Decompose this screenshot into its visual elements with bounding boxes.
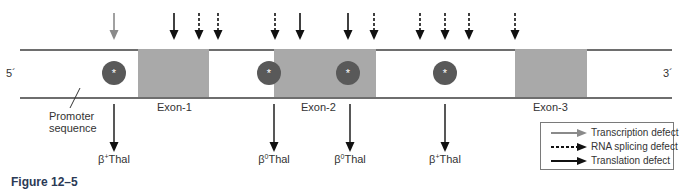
splicing-arrow-515 — [511, 13, 520, 40]
promoter-pointer-line — [70, 88, 80, 108]
outcome-arrow-3 — [346, 104, 355, 152]
figure-caption: Figure 12–5 — [11, 175, 78, 189]
translation-arrow-300 — [296, 13, 305, 40]
outcome-arrow-2 — [270, 104, 279, 152]
transcription-arrow — [110, 13, 119, 40]
outcome-label-beta-zero-1: β0Thal — [258, 153, 290, 165]
splicing-arrow-445 — [441, 13, 450, 40]
splicing-arrow-420 — [416, 13, 425, 40]
splicing-arrow-199 — [195, 13, 204, 40]
translation-arrow-348 — [344, 13, 353, 40]
gray-arrow-icon — [551, 128, 587, 138]
outcome-label-beta-zero-2: β0Thal — [334, 153, 366, 165]
splicing-arrow-374 — [370, 13, 379, 40]
outcome-arrow-4 — [441, 104, 450, 152]
solid-arrow-icon — [551, 156, 587, 166]
splicing-arrow-218 — [214, 13, 223, 40]
legend-box: Transcription defect RNA splicing defect… — [540, 122, 674, 170]
splicing-arrow-275 — [271, 13, 280, 40]
outcome-label-beta-plus-2: β+Thal — [429, 153, 461, 165]
splicing-arrow-469 — [465, 13, 474, 40]
legend-item-transcription: Transcription defect — [551, 126, 678, 139]
outcome-arrow-1 — [110, 104, 119, 152]
outcome-label-beta-plus-1: β+Thal — [98, 153, 130, 165]
legend-item-translation: Translation defect — [551, 154, 670, 167]
dashed-arrow-icon — [551, 142, 587, 152]
legend-item-splicing: RNA splicing defect — [551, 140, 678, 153]
translation-arrow-174 — [170, 13, 179, 40]
